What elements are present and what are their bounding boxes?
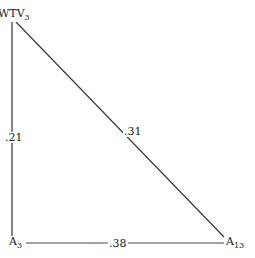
node-a3-base: A xyxy=(9,235,17,248)
edge-wtv3-a13 xyxy=(16,22,224,237)
node-a13: A13 xyxy=(226,236,244,250)
node-wtv3-sub: 3 xyxy=(25,13,30,22)
node-a3: A3 xyxy=(9,236,22,250)
edge-label-wtv3-a13: .31 xyxy=(123,126,143,137)
node-wtv3: WTV3 xyxy=(0,8,30,22)
node-wtv3-base: WTV xyxy=(0,7,25,20)
edge-label-a3-a13: .38 xyxy=(108,238,128,249)
node-a3-sub: 3 xyxy=(17,241,22,250)
edge-label-wtv3-a3: .21 xyxy=(4,132,24,143)
node-a13-sub: 13 xyxy=(234,241,244,250)
node-a13-base: A xyxy=(226,235,234,248)
